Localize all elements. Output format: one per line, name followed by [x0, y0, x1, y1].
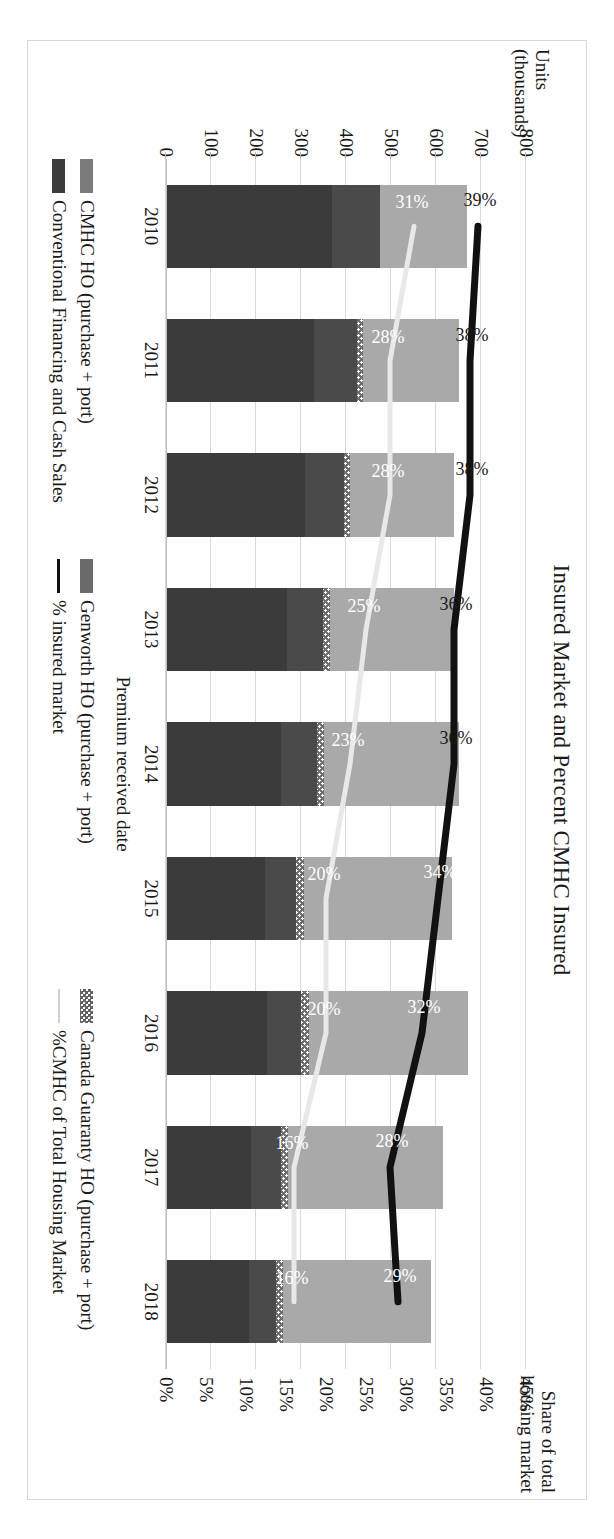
- x-tick-label: 2014: [140, 745, 162, 783]
- line-point-label: 39%: [464, 189, 497, 210]
- chart-legend: CMHC HO (purchase + port)Genworth HO (pu…: [36, 159, 98, 1479]
- line-point-label: 16%: [276, 1267, 309, 1288]
- y-tick-label-left: 100: [200, 128, 222, 157]
- legend-swatch-genworth-icon: [81, 559, 94, 593]
- x-tick-label: 2017: [140, 1148, 162, 1186]
- y-tick-label-right: 45%: [515, 1377, 537, 1412]
- y-tick-label-right: 25%: [355, 1377, 377, 1412]
- y-tick-label-left: 300: [290, 128, 312, 157]
- y-tick-mark: [525, 152, 526, 159]
- line-point-label: 38%: [456, 458, 489, 479]
- legend-swatch-linewht-icon: [53, 989, 66, 1023]
- x-tick-label: 2018: [140, 1282, 162, 1320]
- legend-swatch-lineblk-icon: [53, 559, 66, 593]
- legend-label: CMHC HO (purchase + port): [76, 200, 98, 424]
- x-axis-baseline: [166, 159, 167, 1369]
- line-point-label: 20%: [308, 998, 341, 1019]
- x-tick-label: 2013: [140, 610, 162, 648]
- legend-label: Canada Guaranty HO (purchase + port): [76, 1030, 98, 1330]
- legend-swatch-canguar-icon: [81, 989, 94, 1023]
- y-tick-mark: [210, 152, 211, 159]
- legend-label: %CMHC of Total Housing Market: [48, 1030, 70, 1294]
- legend-label: Genworth HO (purchase + port): [76, 600, 98, 844]
- legend-entry[interactable]: CMHC HO (purchase + port): [69, 159, 98, 424]
- y-axis-label-left: Units (thousands): [510, 49, 552, 138]
- y-tick-label-right: 40%: [475, 1377, 497, 1412]
- y-axis-label-right-line1: Share of total: [537, 1375, 558, 1493]
- y-tick-mark: [255, 152, 256, 159]
- y-tick-mark: [345, 152, 346, 159]
- line-point-label: 28%: [372, 326, 405, 347]
- y-tick-mark: [300, 152, 301, 159]
- line-point-label: 20%: [308, 863, 341, 884]
- legend-entry[interactable]: Conventional Financing and Cash Sales: [41, 159, 70, 503]
- x-tick-label: 2016: [140, 1013, 162, 1051]
- chart-image-frame: Insured Market and Percent CMHC Insured …: [0, 0, 614, 1539]
- line-point-label: 29%: [384, 1265, 417, 1286]
- line-point-label: 25%: [348, 595, 381, 616]
- y-tick-label-left: 800: [515, 128, 537, 157]
- legend-entry[interactable]: Genworth HO (purchase + port): [69, 559, 98, 844]
- y-tick-label-left: 0: [155, 147, 177, 157]
- line-point-label: 28%: [372, 460, 405, 481]
- y-tick-mark: [435, 152, 436, 159]
- x-tick-label: 2015: [140, 879, 162, 917]
- legend-entry[interactable]: Canada Guaranty HO (purchase + port): [69, 989, 98, 1330]
- chart-title: Insured Market and Percent CMHC Insured: [548, 41, 574, 1499]
- x-tick-label: 2011: [140, 342, 162, 379]
- y-axis-label-left-line2: (thousands): [510, 49, 531, 138]
- legend-swatch-cmhc-icon: [81, 159, 94, 193]
- legend-label: Conventional Financing and Cash Sales: [48, 200, 70, 503]
- y-tick-label-right: 0%: [155, 1377, 177, 1402]
- y-tick-mark: [480, 152, 481, 159]
- y-tick-mark: [390, 152, 391, 159]
- x-tick-label: 2010: [140, 207, 162, 245]
- line-point-label: 32%: [408, 996, 441, 1017]
- line-point-label: 36%: [440, 593, 473, 614]
- line-point-label: 23%: [332, 729, 365, 750]
- line-point-label: 31%: [396, 191, 429, 212]
- line-point-label: 34%: [424, 861, 457, 882]
- y-tick-label-right: 20%: [315, 1377, 337, 1412]
- plot-area: 8007006005004003002001000 45%40%35%30%25…: [166, 159, 526, 1369]
- y-tick-label-left: 600: [425, 128, 447, 157]
- y-axis-label-left-line1: Units: [531, 49, 552, 138]
- line-point-label: 16%: [276, 1132, 309, 1153]
- line-point-label: 38%: [456, 324, 489, 345]
- legend-entry[interactable]: % insured market: [41, 559, 70, 734]
- rotated-chart-canvas: Insured Market and Percent CMHC Insured …: [27, 40, 587, 1500]
- y-tick-label-left: 200: [245, 128, 267, 157]
- y-tick-mark: [165, 152, 166, 159]
- y-tick-label-right: 15%: [275, 1377, 297, 1412]
- legend-entry[interactable]: %CMHC of Total Housing Market: [41, 989, 70, 1294]
- line-point-label: 28%: [376, 1130, 409, 1151]
- y-tick-label-left: 700: [470, 128, 492, 157]
- y-tick-label-left: 500: [380, 128, 402, 157]
- y-tick-label-right: 5%: [195, 1377, 217, 1402]
- legend-swatch-conv-icon: [53, 159, 66, 193]
- line-point-label: 36%: [440, 727, 473, 748]
- y-tick-label-right: 35%: [435, 1377, 457, 1412]
- y-tick-label-right: 10%: [235, 1377, 257, 1412]
- y-tick-label-left: 400: [335, 128, 357, 157]
- x-tick-label: 2012: [140, 476, 162, 514]
- x-axis-label: Premium received date: [112, 159, 134, 1369]
- legend-label: % insured market: [48, 600, 70, 734]
- y-tick-label-right: 30%: [395, 1377, 417, 1412]
